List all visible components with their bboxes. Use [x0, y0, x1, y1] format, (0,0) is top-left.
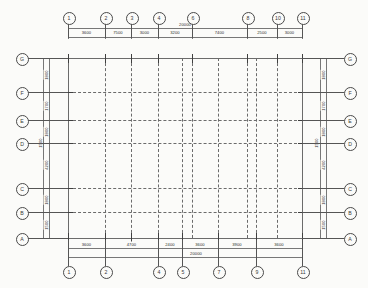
grid-bubble-left-F[interactable]: F [16, 87, 29, 100]
gridline-F-horizontal [68, 92, 302, 93]
grid-bubble-top-6[interactable]: 6 [187, 12, 200, 25]
gridline-2-vertical [105, 58, 106, 238]
grid-bubble-top-2[interactable]: 2 [100, 12, 113, 25]
column-stub [277, 54, 278, 63]
grid-bubble-left-C[interactable]: C [16, 183, 29, 196]
right-dimension-text: 1800 [321, 70, 326, 80]
right-dimension-text: 1800 [321, 127, 326, 137]
extension-line [302, 212, 344, 213]
top-dimension-text: 3600 [81, 30, 92, 35]
bottom-dimension-rail [68, 248, 302, 249]
column-stub [131, 54, 132, 63]
gridline-3-vertical [131, 58, 132, 238]
top-dimension-text: 3200 [170, 30, 181, 35]
extension-line [256, 240, 257, 266]
grid-bubble-left-D[interactable]: D [16, 138, 29, 151]
extension-line [302, 58, 344, 59]
extension-line [105, 240, 106, 266]
grid-bubble-right-F[interactable]: F [344, 87, 357, 100]
right-dimension-rail [320, 58, 321, 238]
extension-line [26, 143, 68, 144]
gridline-A-horizontal [68, 238, 302, 239]
bottom-dimension-text: 3900 [232, 242, 243, 247]
gridline-B-horizontal [68, 212, 302, 213]
left-dimension-text: 1500 [44, 220, 49, 230]
right-dimension-text: 1800 [321, 195, 326, 205]
gridline-8-vertical [247, 58, 248, 238]
bottom-dimension-text: 3600 [274, 242, 285, 247]
bottom-overall-dimension-rail [68, 257, 302, 258]
extension-line [302, 240, 303, 266]
grid-bubble-bottom-7[interactable]: 7 [213, 266, 226, 279]
gridline-11-vertical [302, 58, 303, 238]
grid-bubble-right-B[interactable]: B [344, 207, 357, 220]
left-dimension-text: 1800 [44, 70, 49, 80]
drawing-sheet: 3600 7500 3000 3200 7400 2500 3000 20000… [0, 0, 368, 288]
gridline-10-vertical [277, 58, 278, 238]
left-dimension-rail-inner [49, 58, 50, 238]
grid-bubble-left-A[interactable]: A [16, 233, 29, 246]
right-dimension-text: 1700 [321, 101, 326, 111]
grid-bubble-top-1[interactable]: 1 [63, 12, 76, 25]
left-dimension-text: 1800 [44, 127, 49, 137]
grid-bubble-bottom-4[interactable]: 4 [153, 266, 166, 279]
left-dimension-text: 4200 [44, 160, 49, 170]
grid-bubble-top-8[interactable]: 8 [242, 12, 255, 25]
column-stub [247, 54, 248, 63]
top-dimension-text: 3000 [139, 30, 150, 35]
extension-line [302, 92, 344, 93]
gridline-5-vertical [182, 58, 183, 238]
grid-bubble-bottom-11[interactable]: 11 [297, 266, 310, 279]
bottom-dimension-text: 4700 [126, 242, 137, 247]
grid-bubble-top-4[interactable]: 4 [153, 12, 166, 25]
extension-line [182, 240, 183, 266]
grid-bubble-left-G[interactable]: G [16, 53, 29, 66]
column-stub [105, 54, 106, 63]
extension-line [26, 92, 68, 93]
grid-bubble-bottom-5[interactable]: 5 [177, 266, 190, 279]
top-dimension-text: 2500 [257, 30, 268, 35]
gridline-9-vertical [256, 58, 257, 238]
top-dimension-rail [68, 37, 302, 38]
grid-bubble-left-E[interactable]: E [16, 115, 29, 128]
extension-line [302, 238, 344, 239]
gridline-1-vertical [68, 58, 69, 238]
grid-bubble-left-B[interactable]: B [16, 207, 29, 220]
grid-bubble-right-E[interactable]: E [344, 115, 357, 128]
top-dimension-text: 3000 [284, 30, 295, 35]
bottom-dimension-text: 3600 [81, 242, 92, 247]
gridline-6-vertical [192, 58, 193, 238]
grid-bubble-bottom-1[interactable]: 1 [63, 266, 76, 279]
gridline-D-horizontal [68, 143, 302, 144]
bottom-dimension-text: 2400 [165, 242, 176, 247]
grid-bubble-bottom-2[interactable]: 2 [100, 266, 113, 279]
gridline-C-horizontal [68, 188, 302, 189]
column-stub [158, 54, 159, 63]
grid-bubble-top-11[interactable]: 11 [297, 12, 310, 25]
right-dimension-text: 1500 [321, 220, 326, 230]
gridline-G-horizontal [68, 58, 302, 59]
grid-bubble-right-G[interactable]: G [344, 53, 357, 66]
bottom-overall-dimension-text: 20000 [190, 251, 203, 256]
column-stub [68, 54, 69, 63]
column-stub [192, 54, 193, 63]
bottom-dimension-text: 3600 [195, 242, 206, 247]
grid-bubble-top-3[interactable]: 3 [126, 12, 139, 25]
right-dimension-text: 4200 [321, 160, 326, 170]
grid-bubble-bottom-9[interactable]: 9 [251, 266, 264, 279]
grid-bubble-right-D[interactable]: D [344, 138, 357, 151]
extension-line [26, 188, 68, 189]
gridline-7-vertical [218, 58, 219, 238]
extension-line [218, 240, 219, 266]
extension-line [302, 143, 344, 144]
extension-line [26, 238, 68, 239]
top-dimension-text: 7400 [214, 30, 225, 35]
grid-bubble-top-10[interactable]: 10 [272, 12, 285, 25]
extension-line [302, 188, 344, 189]
left-dimension-text: 1800 [44, 195, 49, 205]
extension-line [302, 120, 344, 121]
grid-bubble-right-C[interactable]: C [344, 183, 357, 196]
extension-line [26, 212, 68, 213]
left-dimension-text: 1700 [44, 101, 49, 111]
grid-bubble-right-A[interactable]: A [344, 233, 357, 246]
